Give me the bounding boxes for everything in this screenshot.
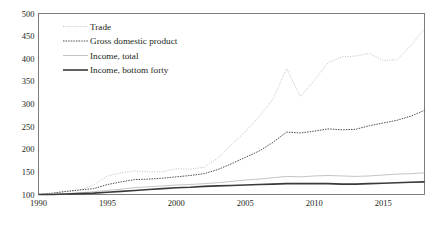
x-axis-tick-labels: 199019952000200520102015 <box>30 198 392 208</box>
y-tick-label: 350 <box>22 76 35 86</box>
legend-item-label: Income, total <box>90 51 139 61</box>
chart-legend: TradeGross domestic productIncome, total… <box>63 22 178 76</box>
y-tick-label: 400 <box>22 54 35 64</box>
x-tick-label: 2005 <box>237 198 254 208</box>
x-tick-label: 1995 <box>99 198 116 208</box>
y-tick-label: 150 <box>22 167 35 177</box>
chart-container: 100150200250300350400450500 199019952000… <box>0 0 435 225</box>
x-tick-label: 2000 <box>168 198 185 208</box>
y-tick-label: 250 <box>22 122 35 132</box>
y-tick-label: 200 <box>22 144 35 154</box>
x-tick-label: 2010 <box>306 198 323 208</box>
y-tick-label: 500 <box>22 9 35 19</box>
x-tick-label: 1990 <box>30 198 47 208</box>
y-tick-label: 300 <box>22 99 35 109</box>
legend-item-label: Gross domestic product <box>90 36 178 46</box>
x-tick-label: 2015 <box>375 198 392 208</box>
series-line <box>39 110 425 194</box>
legend-item-label: Income, bottom forty <box>90 65 169 75</box>
legend-item-label: Trade <box>90 22 111 32</box>
y-tick-label: 450 <box>22 31 35 41</box>
line-chart: 100150200250300350400450500 199019952000… <box>0 0 435 225</box>
y-axis-tick-labels: 100150200250300350400450500 <box>22 9 35 200</box>
